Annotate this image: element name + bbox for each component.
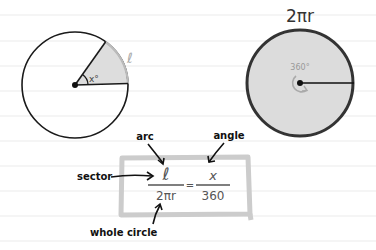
circumference-title: 2πr: [286, 6, 314, 26]
center-dot: [72, 82, 78, 88]
sector-annotation: sector: [77, 171, 112, 182]
angle-label: x°: [89, 74, 99, 84]
sector-arrow: [111, 175, 152, 177]
arc-label: ℓ: [126, 50, 133, 66]
numerator-angle: x: [208, 168, 217, 183]
full-angle-label: 360°: [290, 63, 309, 72]
diagram-canvas: x° ℓ 360° 2πr ℓ 2πr = x 360 arc angle se…: [0, 0, 376, 250]
arc-annotation: arc: [136, 131, 154, 142]
angle-annotation: angle: [213, 130, 244, 141]
whole-circle: 360° 2πr: [247, 6, 354, 136]
whole-circle-annotation: whole circle: [90, 227, 158, 238]
annotations: arc angle sector whole circle: [77, 130, 245, 238]
sector-circle: x° ℓ: [22, 32, 133, 138]
denominator-360: 360: [202, 189, 225, 203]
equals-sign: =: [186, 180, 194, 191]
center-dot: [297, 80, 303, 86]
denominator-circumference: 2πr: [156, 189, 176, 203]
numerator-arc: ℓ: [161, 164, 169, 184]
